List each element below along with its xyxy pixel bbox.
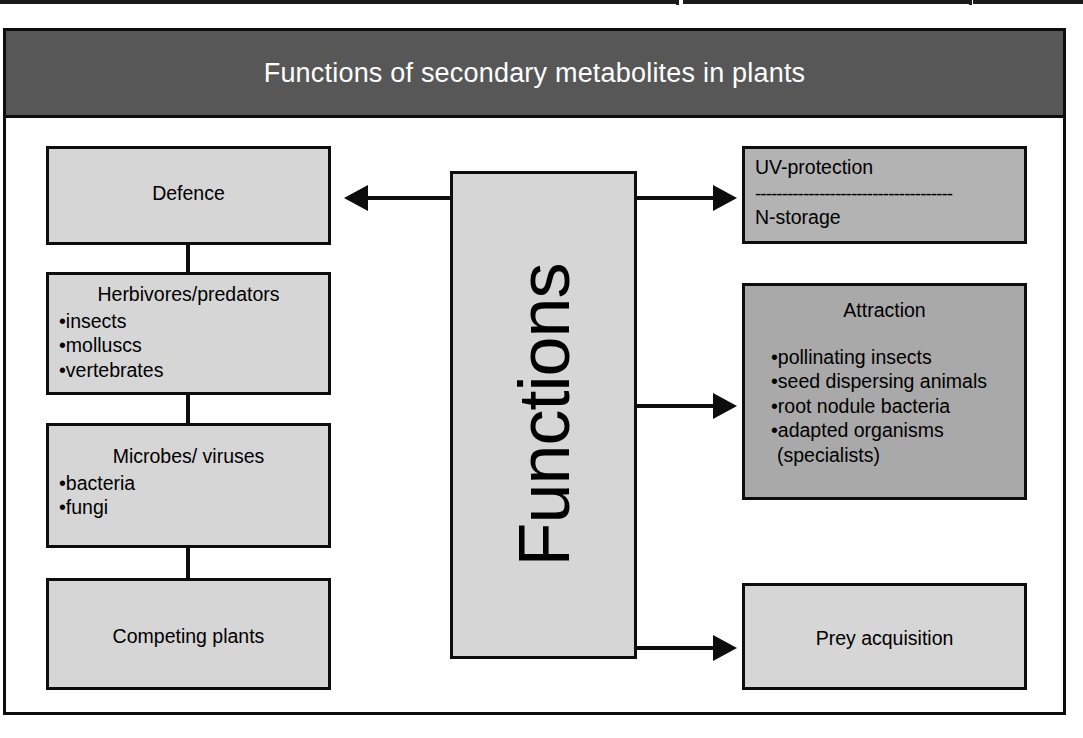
node-competing-plants-title: Competing plants	[113, 625, 265, 647]
bullet-glyph: •	[59, 496, 66, 518]
connector-herbivores-to-microbes	[186, 393, 190, 425]
node-defence[interactable]: Defence	[46, 146, 331, 245]
list-item-continuation: (specialists)	[771, 443, 1024, 468]
arrowhead-right-icon	[713, 635, 737, 661]
list-item: •pollinating insects	[771, 345, 1024, 370]
bullet-glyph: •	[771, 346, 778, 368]
node-attraction[interactable]: Attraction •pollinating insects •seed di…	[742, 283, 1027, 500]
node-uv-protection-label: UV-protection	[755, 155, 1024, 180]
node-herbivores-title: Herbivores/predators	[97, 283, 279, 305]
node-herbivores[interactable]: Herbivores/predators •insects •molluscs …	[46, 272, 331, 395]
node-prey-acquisition-title: Prey acquisition	[816, 627, 954, 649]
page-title: Functions of secondary metabolites in pl…	[264, 58, 806, 89]
dashed-divider: -------------------------------------	[755, 184, 1013, 203]
list-item: •insects	[59, 309, 328, 334]
node-microbes[interactable]: Microbes/ viruses •bacteria •fungi	[46, 423, 331, 548]
node-microbes-title: Microbes/ viruses	[113, 445, 265, 467]
bullet-glyph: •	[59, 310, 66, 332]
node-uv-protection-n-storage[interactable]: UV-protection --------------------------…	[742, 146, 1027, 244]
arrow-right-to-uv-storage	[637, 185, 737, 211]
node-competing-plants[interactable]: Competing plants	[46, 578, 331, 690]
node-defence-title: Defence	[152, 182, 225, 204]
list-item: •root nodule bacteria	[771, 394, 1024, 419]
node-functions[interactable]: Functions	[450, 171, 637, 659]
page-top-artifact	[0, 0, 1083, 6]
list-item: •seed dispersing animals	[771, 369, 1024, 394]
node-prey-acquisition[interactable]: Prey acquisition	[742, 583, 1027, 690]
list-item: •vertebrates	[59, 358, 328, 383]
connector-microbes-to-competing	[186, 546, 190, 580]
arrow-left-to-defence	[344, 185, 450, 211]
bullet-glyph: •	[771, 419, 778, 441]
arrow-right-to-prey	[637, 635, 737, 661]
node-n-storage-label: N-storage	[755, 205, 1024, 230]
node-attraction-title: Attraction	[843, 299, 925, 321]
arrowhead-right-icon	[713, 185, 737, 211]
figure-header-band: Functions of secondary metabolites in pl…	[3, 28, 1066, 118]
arrowhead-right-icon	[713, 393, 737, 419]
list-item: •fungi	[59, 495, 328, 520]
list-item: •bacteria	[59, 471, 328, 496]
list-item: •adapted organisms	[771, 418, 1024, 443]
bullet-glyph: •	[771, 370, 778, 392]
connector-defence-to-herbivores	[186, 243, 190, 274]
node-functions-label: Functions	[508, 263, 580, 566]
node-attraction-list: •pollinating insects •seed dispersing an…	[745, 345, 1024, 468]
diagram-canvas: Functions of secondary metabolites in pl…	[0, 0, 1083, 738]
bullet-glyph: •	[59, 334, 66, 356]
bullet-glyph: •	[771, 395, 778, 417]
bullet-glyph: •	[59, 472, 66, 494]
arrow-right-to-attraction	[637, 393, 737, 419]
node-herbivores-list: •insects •molluscs •vertebrates	[49, 309, 328, 383]
list-item: •molluscs	[59, 333, 328, 358]
node-microbes-list: •bacteria •fungi	[49, 471, 328, 520]
arrowhead-left-icon	[344, 185, 368, 211]
bullet-glyph: •	[59, 359, 66, 381]
